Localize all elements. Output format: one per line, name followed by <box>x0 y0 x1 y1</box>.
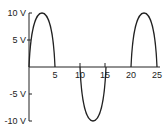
positive-lobe-1 <box>29 13 55 67</box>
x-tick-label: 25 <box>152 70 162 80</box>
y-tick-label: -5 V <box>9 89 26 99</box>
voltage-chart: 10 V 5 V -5 V -10 V 5 10 15 20 25 <box>0 0 166 128</box>
positive-lobe-2 <box>131 13 157 67</box>
chart-plot: 10 V 5 V -5 V -10 V 5 10 15 20 25 <box>0 0 166 128</box>
y-tick-label: -10 V <box>4 116 26 126</box>
x-tick-label: 5 <box>52 70 57 80</box>
x-tick-label: 20 <box>126 70 136 80</box>
y-tick-label: 5 V <box>12 35 26 45</box>
y-tick-label: 10 V <box>7 8 26 18</box>
